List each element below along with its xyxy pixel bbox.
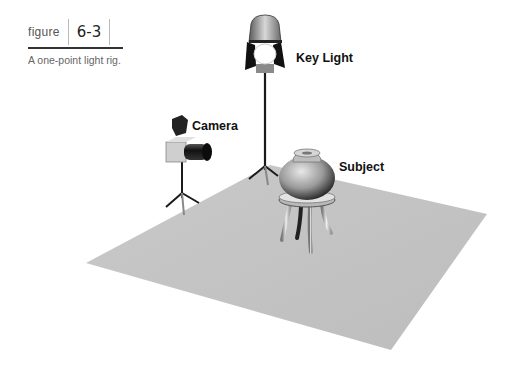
key-light-label: Key Light: [296, 51, 353, 65]
light-rig-illustration: [0, 0, 512, 384]
subject-label: Subject: [339, 160, 384, 174]
camera-label: Camera: [192, 119, 238, 133]
key-light: [245, 15, 285, 185]
